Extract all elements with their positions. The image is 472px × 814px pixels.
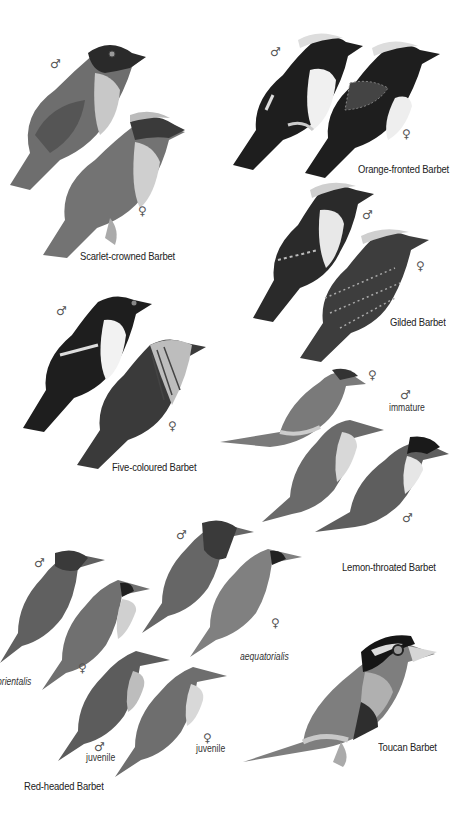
sex-symbol-male: ♂ xyxy=(50,58,61,70)
sex-symbol-male: ♂ xyxy=(402,512,413,524)
species-label-scarlet-crowned-barbet: Scarlet-crowned Barbet xyxy=(80,250,175,262)
sex-symbol-female: ♀ xyxy=(78,662,87,674)
barbet-plate: ♂ ♀ Scarlet-crowned Barbet ♂ ♀ Orange-fr… xyxy=(0,0,472,814)
sex-symbol-male: ♂ xyxy=(400,389,411,401)
bird-illustration-red-headed-juvenile-female xyxy=(115,662,230,782)
species-label-red-headed-barbet: Red-headed Barbet xyxy=(24,780,104,792)
bird-illustration-orange-fronted-female xyxy=(300,38,445,178)
sex-symbol-male: ♂ xyxy=(56,305,67,317)
sex-symbol-female: ♀ xyxy=(138,205,147,217)
species-label-lemon-throated-barbet: Lemon-throated Barbet xyxy=(342,561,436,573)
species-label-orange-fronted-barbet: Orange-fronted Barbet xyxy=(358,163,449,175)
sex-symbol-female: ♀ xyxy=(168,420,177,432)
sex-symbol-male: ♂ xyxy=(270,46,281,58)
sex-symbol-female: ♀ xyxy=(402,128,411,140)
sex-symbol-female: ♀ xyxy=(416,260,425,272)
age-note-immature: immature xyxy=(389,402,425,413)
bird-illustration-gilded-female xyxy=(295,228,435,368)
subspecies-label-orientalis: orientalis xyxy=(0,676,31,687)
sex-symbol-female: ♀ xyxy=(368,369,377,381)
species-label-toucan-barbet: Toucan Barbet xyxy=(378,741,437,753)
age-note-juvenile: juvenile xyxy=(196,743,225,754)
species-label-five-coloured-barbet: Five-coloured Barbet xyxy=(112,461,196,473)
bird-illustration-five-coloured-female xyxy=(72,335,212,470)
sex-symbol-male: ♂ xyxy=(176,529,187,541)
age-note-juvenile: juvenile xyxy=(86,752,115,763)
bird-illustration-scarlet-crowned-female xyxy=(35,110,185,260)
sex-symbol-male: ♂ xyxy=(34,557,45,569)
sex-symbol-male: ♂ xyxy=(362,209,373,221)
sex-symbol-female: ♀ xyxy=(271,617,280,629)
species-label-gilded-barbet: Gilded Barbet xyxy=(390,316,446,328)
bird-illustration-lemon-throated-male xyxy=(315,432,450,537)
